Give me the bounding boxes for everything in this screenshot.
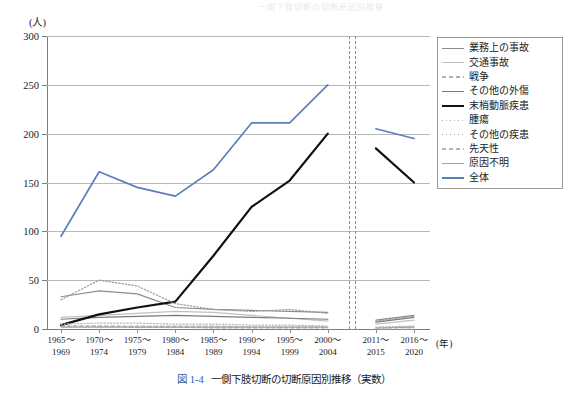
figure-container: 一側下肢切断の切断原因別推移 (人) 050100150200250300 19…	[0, 0, 568, 399]
figure-number: 図 1-4	[177, 374, 204, 385]
legend-label: 交通事故	[469, 57, 509, 69]
figure-caption: 図 1-4一側下肢切断の切断原因別推移（実数）	[0, 371, 568, 386]
axis-break-line-1	[349, 36, 350, 329]
x-tick-label-top-8: 2011～	[363, 335, 390, 347]
series-line-4-seg1	[376, 148, 414, 182]
x-tick-label-bottom-9: 2020	[401, 347, 428, 359]
series-line-4-seg0	[61, 134, 328, 325]
legend-item-3[interactable]: その他の外傷	[442, 84, 558, 98]
y-tick-label-250: 250	[23, 79, 39, 90]
x-tick-label-0: 1965～1969	[48, 335, 75, 358]
series-4	[61, 134, 414, 325]
legend-item-2[interactable]: 戦争	[442, 70, 558, 84]
series-0	[61, 291, 414, 320]
series-9	[61, 85, 414, 236]
x-tick-label-bottom-6: 1999	[276, 347, 303, 359]
legend-label: 末梢動脈疾患	[469, 100, 529, 112]
series-line-8-seg1	[376, 327, 414, 328]
chart-legend: 業務上の事故交通事故戦争その他の外傷末梢動脈疾患腫瘍その他の疾患先天性原因不明全…	[437, 37, 563, 189]
legend-line-swatch-icon	[442, 158, 464, 168]
x-tick-label-bottom-8: 2015	[363, 347, 390, 359]
x-tick-label-bottom-7: 2004	[314, 347, 341, 359]
figure-caption-text: 一側下肢切断の切断原因別推移（実数）	[211, 374, 391, 385]
x-tick-label-top-6: 1995～	[276, 335, 303, 347]
legend-item-1[interactable]: 交通事故	[442, 55, 558, 69]
y-tick-label-300: 300	[23, 31, 39, 42]
x-tick-label-bottom-5: 1994	[238, 347, 265, 359]
x-tick-label-3: 1980～1984	[162, 335, 189, 358]
x-tick-label-bottom-4: 1989	[200, 347, 227, 359]
x-tick-label-top-7: 2000～	[314, 335, 341, 347]
legend-line-swatch-icon	[442, 43, 464, 53]
legend-item-0[interactable]: 業務上の事故	[442, 41, 558, 55]
legend-line-swatch-icon	[442, 72, 464, 82]
y-tick-label-200: 200	[23, 128, 39, 139]
x-tick-label-8: 2011～2015	[363, 335, 390, 358]
series-line-0-seg0	[61, 291, 328, 312]
legend-line-swatch-icon	[442, 101, 464, 111]
x-tick-label-top-2: 1975～	[124, 335, 151, 347]
series-1	[61, 311, 414, 324]
series-line-9-seg1	[376, 129, 414, 139]
x-tick-label-bottom-3: 1984	[162, 347, 189, 359]
legend-label: 先天性	[469, 143, 499, 155]
legend-item-5[interactable]: 腫瘍	[442, 113, 558, 127]
legend-line-swatch-icon	[442, 115, 464, 125]
x-tick-label-2: 1975～1979	[124, 335, 151, 358]
x-tick-label-bottom-1: 1974	[86, 347, 113, 359]
x-tick-label-7: 2000～2004	[314, 335, 341, 358]
series-3	[61, 315, 414, 322]
legend-line-swatch-icon	[442, 173, 464, 183]
x-tick-label-5: 1990～1994	[238, 335, 265, 358]
x-tick-label-9: 2016～2020	[401, 335, 428, 358]
x-tick-label-top-4: 1985～	[200, 335, 227, 347]
y-tick-label-100: 100	[23, 226, 39, 237]
legend-line-swatch-icon	[442, 130, 464, 140]
x-tick-label-6: 1995～1999	[276, 335, 303, 358]
x-tick-label-top-0: 1965～	[48, 335, 75, 347]
page-bleed-text: 一側下肢切断の切断原因別推移	[258, 1, 558, 12]
legend-label: 腫瘍	[469, 114, 489, 126]
series-lines	[47, 36, 430, 330]
axis-break-line-2	[355, 36, 356, 329]
x-tick-label-1: 1970～1974	[86, 335, 113, 358]
legend-line-swatch-icon	[442, 86, 464, 96]
legend-item-6[interactable]: その他の疾患	[442, 127, 558, 141]
x-tick-label-top-1: 1970～	[86, 335, 113, 347]
legend-label: その他の疾患	[469, 129, 529, 141]
legend-item-4[interactable]: 末梢動脈疾患	[442, 99, 558, 113]
legend-label: その他の外傷	[469, 85, 529, 97]
plot-area: 050100150200250300 1965～19691970～1974197…	[47, 36, 430, 330]
series-line-9-seg0	[61, 85, 328, 236]
legend-item-7[interactable]: 先天性	[442, 142, 558, 156]
legend-label: 業務上の事故	[469, 42, 529, 54]
x-tick-label-bottom-2: 1979	[124, 347, 151, 359]
x-axis-unit-label: (年)	[436, 336, 452, 350]
x-tick-label-top-9: 2016～	[401, 335, 428, 347]
y-tick-label-0: 0	[34, 324, 39, 335]
series-line-1-seg1	[376, 320, 414, 324]
y-axis-unit-label: (人)	[29, 14, 46, 29]
x-tick-label-bottom-0: 1969	[48, 347, 75, 359]
legend-label: 全体	[469, 172, 489, 184]
x-tick-label-top-3: 1980～	[162, 335, 189, 347]
legend-label: 戦争	[469, 71, 489, 83]
x-tick-label-top-5: 1990～	[238, 335, 265, 347]
y-tick-label-150: 150	[23, 177, 39, 188]
legend-item-9[interactable]: 全体	[442, 171, 558, 185]
series-line-3-seg0	[61, 315, 328, 319]
x-tick-label-4: 1985～1989	[200, 335, 227, 358]
y-tick-label-50: 50	[29, 275, 40, 286]
legend-line-swatch-icon	[442, 144, 464, 154]
legend-label: 原因不明	[469, 157, 509, 169]
legend-item-8[interactable]: 原因不明	[442, 156, 558, 170]
legend-line-swatch-icon	[442, 58, 464, 68]
